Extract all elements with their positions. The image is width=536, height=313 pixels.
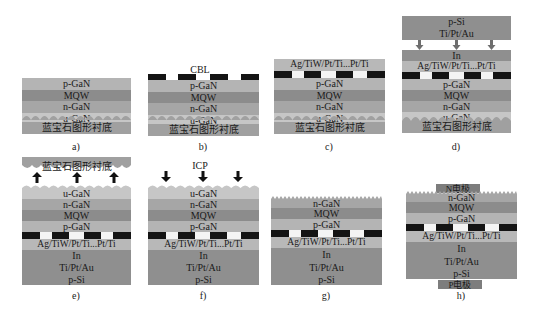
panel-h: n-GaN MQW p-GaN Ag/TiW/Pt/Ti...Pt/Ti In … [406, 194, 517, 279]
layer-ti-pt-au: Ti/Pt/Au [402, 28, 511, 40]
layer-ti-pt-au: Ti/Pt/Au [406, 256, 517, 268]
cbl-pattern [271, 230, 382, 237]
layer-p-gan: p-GaN [271, 219, 382, 230]
caption-h: h) [441, 290, 481, 301]
layer-n-gan: n-GaN [271, 199, 382, 208]
icp-etch-arrows [148, 171, 259, 183]
bonding-arrows [402, 40, 511, 50]
layer-ti-pt-au: Ti/Pt/Au [148, 262, 259, 274]
layer-p-gan: p-GaN [148, 221, 259, 232]
patterned-bumps [402, 113, 511, 121]
layer-p-gan: p-GaN [22, 221, 131, 232]
layer-n-gan: n-GaN [402, 101, 511, 112]
layer-p-si: p-Si [148, 274, 259, 285]
cbl-pattern [148, 232, 259, 239]
panel-g: n-GaN MQW p-GaN Ag/TiW/Pt/Ti...Pt/Ti In … [271, 199, 382, 285]
layer-p-gan: p-GaN [148, 80, 259, 92]
layer-sapphire-lifted: 蓝宝石图形衬底 [22, 158, 131, 173]
layer-mqw: MQW [148, 210, 259, 221]
layer-p-si: p-Si [402, 16, 511, 28]
layer-p-gan: p-GaN [274, 78, 385, 90]
patterned-bumps [148, 112, 259, 120]
layer-in: In [271, 248, 382, 262]
p-electrode: P电极 [438, 280, 482, 289]
caption-a: a) [56, 141, 96, 152]
layer-mqw: MQW [406, 202, 517, 213]
layer-p-si: p-Si [271, 274, 382, 285]
layer-u-gan: u-GaN [22, 188, 131, 199]
layer-mqw: MQW [22, 90, 131, 101]
layer-mqw: MQW [271, 208, 382, 219]
caption-b: b) [183, 141, 223, 152]
layer-mqw: MQW [402, 90, 511, 101]
panel-d-top-block: p-Si Ti/Pt/Au [402, 16, 511, 40]
layer-ti-pt-au: Ti/Pt/Au [271, 262, 382, 274]
panel-c: Ag/TiW/Pt/Ti...Pt/Ti p-GaN MQW n-GaN u-G… [274, 59, 385, 134]
layer-metal-stack: Ag/TiW/Pt/Ti...Pt/Ti [274, 59, 385, 71]
layer-mqw: MQW [148, 92, 259, 103]
layer-mqw: MQW [274, 90, 385, 101]
panel-e: u-GaN n-GaN MQW p-GaN Ag/TiW/Pt/Ti...Pt/… [22, 188, 131, 285]
layer-in: In [148, 250, 259, 262]
layer-sapphire: 蓝宝石图形衬底 [402, 121, 511, 133]
layer-n-gan: n-GaN [406, 194, 517, 202]
caption-g: g) [306, 290, 346, 301]
layer-metal-stack: Ag/TiW/Pt/Ti...Pt/Ti [22, 239, 131, 250]
layer-sapphire: 蓝宝石图形衬底 [148, 124, 259, 136]
layer-in: In [22, 250, 131, 262]
cbl-pattern [274, 71, 385, 78]
layer-mqw: MQW [22, 210, 131, 221]
layer-in: In [406, 242, 517, 256]
layer-in: In [402, 50, 511, 61]
caption-f: f) [183, 290, 223, 301]
icp-label: ICP [180, 160, 220, 171]
layer-n-gan: n-GaN [22, 199, 131, 210]
caption-c: c) [309, 141, 349, 152]
layer-metal-stack: Ag/TiW/Pt/Ti...Pt/Ti [271, 237, 382, 248]
layer-p-gan: p-GaN [406, 213, 517, 224]
layer-u-gan: u-GaN [148, 188, 259, 199]
patterned-bumps [22, 112, 131, 120]
layer-sapphire: 蓝宝石图形衬底 [22, 122, 131, 134]
layer-sapphire: 蓝宝石图形衬底 [274, 122, 385, 134]
layer-metal-stack: Ag/TiW/Pt/Ti...Pt/Ti [402, 61, 511, 72]
cbl-pattern [22, 232, 131, 239]
panel-b: p-GaN MQW n-GaN u-GaN 蓝宝石图形衬底 [148, 74, 259, 136]
caption-d: d) [436, 141, 476, 152]
layer-p-gan: p-GaN [402, 79, 511, 90]
layer-metal-stack: Ag/TiW/Pt/Ti...Pt/Ti [148, 239, 259, 250]
cbl-pattern [406, 224, 517, 231]
layer-metal-stack: Ag/TiW/Pt/Ti...Pt/Ti [406, 231, 517, 242]
layer-ti-pt-au: Ti/Pt/Au [22, 262, 131, 274]
cbl-pattern [402, 72, 511, 79]
patterned-bumps [274, 112, 385, 120]
layer-n-gan: n-GaN [148, 199, 259, 210]
layer-p-si: p-Si [22, 274, 131, 285]
caption-e: e) [56, 290, 96, 301]
layer-p-gan: p-GaN [22, 78, 131, 90]
panel-f: u-GaN n-GaN MQW p-GaN Ag/TiW/Pt/Ti...Pt/… [148, 188, 259, 285]
